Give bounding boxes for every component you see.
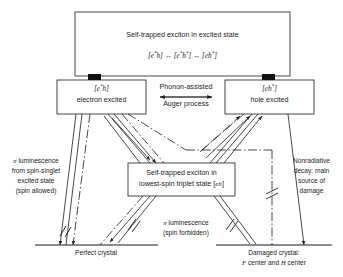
pi-luminescence-line2: (spin forbidden) (143, 229, 229, 236)
sigma-luminescence-line3: excited state (0, 177, 72, 184)
center-box-line2-state: eh (215, 180, 222, 188)
top-box-formula: [e*h] ↔ [e*h*] ↔ [eh*] (75, 52, 290, 60)
formula-term-3: [eh*] (202, 52, 217, 60)
right-box-label: hole excited (225, 97, 314, 105)
left-box-label: electron excited (57, 97, 146, 105)
sigma-luminescence-line4: (spin allowed) (0, 187, 72, 194)
left-connector-block (88, 74, 101, 80)
left-box-state: [e*h] (57, 85, 146, 93)
h-center-text: center (286, 259, 306, 266)
nonradiative-decay-line1: Nonradiative (280, 157, 343, 164)
damaged-crystal-line2: F center and H center (216, 259, 332, 266)
right-box-state: [eh*] (225, 85, 314, 93)
formula-term-2: [e*h*] (174, 52, 192, 60)
pi-line1-rest: luminescence (167, 219, 209, 226)
center-box-line2-pre: lowest-spin triplet state [ (139, 180, 215, 188)
nonradiative-decay-line4: damage (280, 187, 343, 194)
nonradiative-decay-line3: source of (280, 177, 343, 184)
center-box-line1: Self-trapped exciton in (128, 170, 235, 178)
nonradiative-decay-line2: decay: main (280, 167, 343, 174)
sigma-luminescence-line2: from spin-singlet (0, 167, 72, 174)
auger-process-line1: Phonon-assisted (146, 84, 226, 92)
formula-arrow-1: ↔ (165, 51, 172, 60)
formula-term-1: [e*h] (148, 52, 163, 60)
diagram-canvas: Self-trapped exciton in excited state [e… (0, 0, 343, 277)
top-box-title: Self-trapped exciton in excited state (75, 32, 290, 40)
center-box-line2: lowest-spin triplet state [eh] (128, 181, 235, 189)
sigma-luminescence-line1: σ luminescence (0, 157, 72, 164)
top-box-outline (75, 12, 290, 76)
damaged-crystal-line1: Damaged crystal: (216, 249, 332, 256)
pi-luminescence-line1: π luminescence (143, 219, 229, 226)
auger-process-line2: Auger process (146, 101, 226, 109)
right-connector-block (262, 74, 275, 80)
center-box-line2-post: ] (222, 180, 224, 188)
formula-arrow-2: ↔ (193, 51, 200, 60)
perfect-crystal-label: Perfect crystal (36, 249, 156, 256)
sigma-line1-rest: luminescence (17, 157, 59, 164)
f-center-text: center and (246, 259, 281, 266)
